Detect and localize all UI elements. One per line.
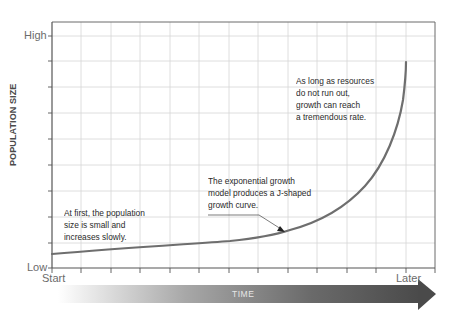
annotation-early-line: At first, the population <box>64 207 145 219</box>
annotation-middle-line: growth curve. <box>208 199 311 211</box>
x-axis-ticks <box>52 268 435 273</box>
annotation-late-line: growth can reach <box>296 99 374 111</box>
x-end-label: Later <box>396 272 421 284</box>
annotation-early-line: size is small and <box>64 219 145 231</box>
growth-chart <box>0 0 450 321</box>
x-start-label: Start <box>42 272 65 284</box>
annotation-late-line: As long as resources <box>296 75 374 87</box>
annotation-middle-line: model produces a J-shaped <box>208 187 311 199</box>
y-high-label: High <box>24 29 47 41</box>
annotation-late-line: do not run out, <box>296 87 374 99</box>
annotation-early: At first, the population size is small a… <box>64 207 145 243</box>
x-axis-title: TIME <box>232 289 254 299</box>
annotation-late: As long as resources do not run out, gro… <box>296 75 374 123</box>
annotation-pointer <box>208 215 285 232</box>
y-axis-title: POPULATION SIZE <box>8 84 18 166</box>
annotation-middle: The exponential growth model produces a … <box>208 175 311 211</box>
annotation-early-line: increases slowly. <box>64 231 145 243</box>
annotation-late-line: a tremendous rate. <box>296 111 374 123</box>
annotation-middle-line: The exponential growth <box>208 175 311 187</box>
